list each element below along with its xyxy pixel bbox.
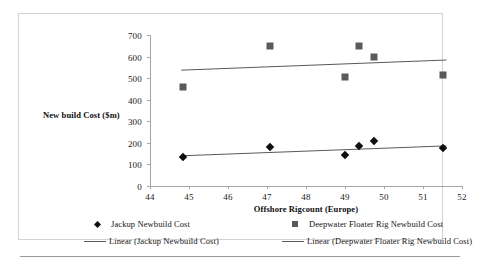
x-tick xyxy=(384,186,385,189)
x-tick-label: 45 xyxy=(184,192,193,202)
x-tick xyxy=(345,186,346,189)
x-tick-label: 46 xyxy=(223,192,232,202)
y-tick-label: 300 xyxy=(128,117,142,127)
legend-label: Linear (Jackup Newbuild Cost) xyxy=(108,236,219,246)
x-tick-label: 49 xyxy=(340,192,349,202)
x-tick-label: 52 xyxy=(457,192,466,202)
legend-label: Jackup Newbuild Cost xyxy=(110,219,190,229)
x-tick-label: 47 xyxy=(262,192,271,202)
y-tick: 400 xyxy=(147,100,150,101)
x-tick xyxy=(267,186,268,189)
trendline xyxy=(181,146,446,156)
data-point-square xyxy=(267,43,274,50)
y-tick: 500 xyxy=(147,78,150,79)
x-axis-title: Offshore Rigcount (Europe) xyxy=(254,204,358,214)
line-key-icon xyxy=(84,241,108,242)
y-tick-label: 700 xyxy=(128,31,142,41)
y-tick-label: 200 xyxy=(128,139,142,149)
x-tick xyxy=(228,186,229,189)
y-tick: 200 xyxy=(147,143,150,144)
x-tick xyxy=(150,186,151,189)
y-tick-label: 400 xyxy=(128,96,142,106)
legend-label: Deepwater Floater Rig Newbuild Cost xyxy=(308,219,443,229)
y-tick: 600 xyxy=(147,57,150,58)
chart-frame: 7006005004003002001000 44454647484950515… xyxy=(18,13,443,240)
plot-area: 7006005004003002001000 44454647484950515… xyxy=(150,35,462,186)
y-axis-title: New build Cost ($m) xyxy=(43,110,120,120)
x-tick-label: 50 xyxy=(379,192,388,202)
x-tick xyxy=(462,186,463,189)
legend-item-jackup-trendline[interactable]: Linear (Jackup Newbuild Cost) xyxy=(84,236,219,246)
y-tick: 700 xyxy=(147,35,150,36)
legend-label: Linear (Deepwater Floater Rig Newbuild C… xyxy=(306,236,472,246)
y-tick: 100 xyxy=(147,164,150,165)
data-point-square xyxy=(355,43,362,50)
line-key-icon xyxy=(282,241,306,242)
scatter-chart-figure: 7006005004003002001000 44454647484950515… xyxy=(0,0,477,265)
x-tick-label: 44 xyxy=(145,192,154,202)
legend-item-jackup[interactable]: Jackup Newbuild Cost xyxy=(84,219,190,229)
diamond-marker-icon xyxy=(84,222,110,227)
y-tick-label: 500 xyxy=(128,74,142,84)
y-tick: 300 xyxy=(147,121,150,122)
page-divider-rule xyxy=(20,256,460,257)
trendline-layer xyxy=(150,35,462,186)
legend-item-deepwater[interactable]: Deepwater Floater Rig Newbuild Cost xyxy=(282,219,443,229)
y-tick-label: 600 xyxy=(128,53,142,63)
x-tick xyxy=(306,186,307,189)
y-tick-label: 100 xyxy=(128,160,142,170)
data-point-square xyxy=(342,73,349,80)
y-tick-label: 0 xyxy=(137,182,142,192)
x-tick-label: 51 xyxy=(418,192,427,202)
legend-item-deepwater-trendline[interactable]: Linear (Deepwater Floater Rig Newbuild C… xyxy=(282,236,472,246)
x-tick xyxy=(423,186,424,189)
x-tick-label: 48 xyxy=(301,192,310,202)
trendline xyxy=(181,60,446,70)
square-marker-icon xyxy=(282,221,308,227)
data-point-square xyxy=(180,84,187,91)
data-point-square xyxy=(371,54,378,61)
x-tick xyxy=(189,186,190,189)
data-point-square xyxy=(439,72,446,79)
chart-legend: Jackup Newbuild Cost Deepwater Floater R… xyxy=(37,217,462,253)
